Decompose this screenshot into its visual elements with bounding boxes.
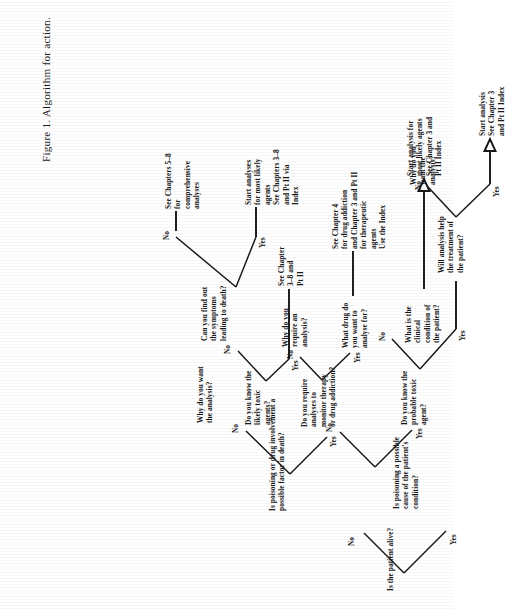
node-see-chapter-3-8-pt-ii: See Chapter 3–8 and Pt II [277, 246, 305, 286]
node-know-probable-toxic-agent: Do you know the probable toxic agent? [400, 371, 428, 425]
edge-label-poisondeath-yes: Yes [330, 436, 337, 447]
node-see-chapter-4-drug-addiction: See Chapter 4 for drug addiction and Cha… [331, 172, 388, 249]
edge-label-poisoncond-yes: Yes [416, 428, 423, 439]
node-will-analysis-help-treatment: Will analysis help the treatment of the … [437, 216, 465, 273]
node-why-require-analysis: Why do you require an analysis? [281, 308, 309, 347]
node-clinical-condition-of-patient: What is the clinical condition of the pa… [404, 305, 442, 343]
edge-label-probabletoxic-no: No [379, 332, 386, 341]
node-start-analyses-most-likely-agents: Start analyses for most likely agents Se… [244, 149, 301, 205]
node-find-symptoms-leading-to-death: Can you find out the symptoms leading to… [200, 286, 228, 341]
edge-label-alive-yes: Yes [450, 534, 457, 545]
node-why-want-analysis-death: Why do you want the analysis? [196, 366, 215, 423]
node-why-want-analysis-treatment: Why do you want the analysis? [409, 146, 437, 185]
edge-label-help-yes: Yes [493, 186, 500, 197]
edge-label-poisondeath-no: No [232, 424, 239, 433]
figure-caption: Figure 1. Algorithm for action. [40, 17, 52, 162]
edge-help-yes [456, 184, 490, 217]
edge-help-no [428, 187, 456, 217]
node-see-chapters-5-8-comprehensive: See Chapters 5–8 for comprehensive analy… [164, 153, 202, 209]
edge-probabletoxic-no [392, 339, 420, 369]
edge-symptoms-no [176, 237, 236, 287]
edge-label-likelytoxic-yes: Yes [292, 360, 299, 371]
node-start-analysis-chapter-3-pt-ii: Start analysis See Chapter 3 and Pt II I… [478, 87, 506, 136]
edge-poisondeath-yes [290, 437, 327, 474]
edge-label-probabletoxic-yes: Yes [459, 330, 466, 341]
node-poisoning-cause-of-condition: Is poisoning a possible cause of the pat… [392, 437, 420, 509]
node-what-drug-analyse-for: What drug do you want to analyse for? [341, 303, 369, 348]
node-know-likely-toxic-agents: Do you know the likely toxic agents? [244, 371, 272, 425]
edge-alive-yes [404, 531, 446, 573]
edge-label-symptoms-no: No [163, 231, 170, 240]
edge-label-likelytoxic-no: No [224, 345, 231, 354]
edge-label-help-no: No [415, 181, 422, 190]
edge-label-alive-no: No [348, 537, 355, 546]
edge-poisoncond-no [340, 432, 375, 467]
edge-label-monitor-no: No [287, 350, 294, 359]
edge-label-poisoncond-no: No [326, 423, 333, 432]
edge-alive-no [364, 533, 404, 573]
node-is-patient-alive: Is the patient alive? [386, 528, 395, 591]
node-require-analyses-monitor-therapy: Do you require analyses to monitor thera… [300, 367, 338, 427]
edge-label-monitor-yes: Yes [354, 352, 361, 363]
edge-label-symptoms-yes: Yes [259, 237, 266, 248]
edge-symptoms-yes [236, 237, 256, 287]
arrowhead-help-yes [485, 139, 496, 151]
